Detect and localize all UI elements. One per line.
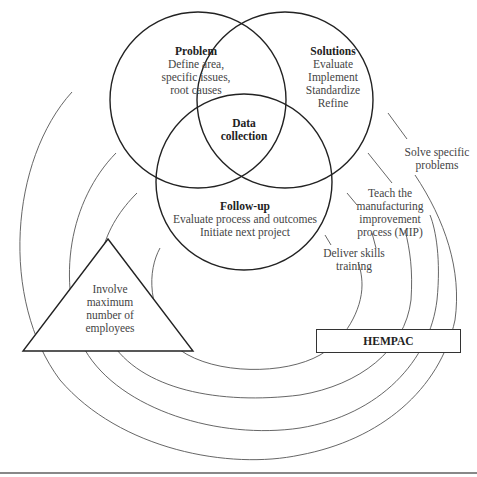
data-collection-label: Data collection bbox=[212, 117, 276, 143]
problem-title: Problem bbox=[140, 45, 252, 58]
followup-label: Follow-up Evaluate process and outcomes … bbox=[170, 200, 320, 239]
leader-solve bbox=[388, 113, 407, 139]
arc-label-line: process (MIP) bbox=[350, 226, 430, 239]
problem-label: Problem Define area, specific issues, ro… bbox=[140, 45, 252, 97]
center-line: Data bbox=[212, 117, 276, 130]
arc-label-line: manufacturing bbox=[350, 200, 430, 213]
solutions-line: Refine bbox=[293, 97, 373, 110]
arc-label-line: improvement bbox=[350, 213, 430, 226]
solve-problems-label: Solve specific problems bbox=[402, 146, 472, 172]
arc-label-line: Deliver skills bbox=[320, 247, 388, 260]
arc-label-line: problems bbox=[402, 159, 472, 172]
circle-problem bbox=[110, 12, 286, 188]
leader-teach bbox=[368, 153, 392, 183]
triangle-label: Involve maximum number of employees bbox=[78, 283, 142, 335]
arc-label-line: Solve specific bbox=[402, 146, 472, 159]
problem-line: Define area, bbox=[140, 58, 252, 71]
problem-line: specific issues, bbox=[140, 71, 252, 84]
solutions-line: Evaluate bbox=[293, 58, 373, 71]
triangle-line: number of bbox=[78, 309, 142, 322]
solutions-line: Implement bbox=[293, 71, 373, 84]
deliver-skills-label: Deliver skills training bbox=[320, 247, 388, 273]
hempac-box: HEMPAC bbox=[316, 329, 461, 353]
teach-mip-label: Teach the manufacturing improvement proc… bbox=[350, 187, 430, 239]
triangle-line: maximum bbox=[78, 296, 142, 309]
followup-line: Evaluate process and outcomes bbox=[170, 213, 320, 226]
leader-deliver bbox=[325, 235, 331, 245]
arc-label-line: Teach the bbox=[350, 187, 430, 200]
solutions-line: Standardize bbox=[293, 84, 373, 97]
arc-label-line: training bbox=[320, 260, 388, 273]
bottom-rule bbox=[0, 472, 477, 474]
problem-line: root causes bbox=[140, 84, 252, 97]
triangle-line: Involve bbox=[78, 283, 142, 296]
solutions-title: Solutions bbox=[293, 45, 373, 58]
followup-title: Follow-up bbox=[170, 200, 320, 213]
center-line: collection bbox=[212, 130, 276, 143]
hempac-label: HEMPAC bbox=[363, 335, 413, 347]
triangle-line: employees bbox=[78, 322, 142, 335]
followup-line: Initiate next project bbox=[170, 226, 320, 239]
solutions-label: Solutions Evaluate Implement Standardize… bbox=[293, 45, 373, 110]
